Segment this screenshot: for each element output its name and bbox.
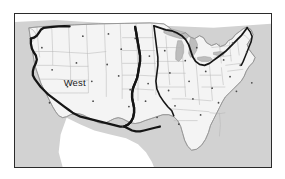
city-dot xyxy=(211,87,213,89)
map-frame-border: West xyxy=(14,13,272,168)
city-dot xyxy=(164,50,166,52)
city-dot xyxy=(174,105,176,107)
city-dot xyxy=(134,38,136,40)
city-dot xyxy=(169,72,171,74)
city-dot xyxy=(128,106,130,108)
city-dot xyxy=(200,114,202,116)
city-dot xyxy=(218,102,220,104)
city-dot xyxy=(149,55,151,57)
city-dot xyxy=(145,100,147,102)
city-dot xyxy=(41,47,43,49)
city-dot xyxy=(184,60,186,62)
city-dot xyxy=(251,82,253,84)
city-dot xyxy=(76,62,78,64)
city-dot xyxy=(236,90,238,92)
city-dot xyxy=(120,48,122,50)
city-dot xyxy=(51,69,53,71)
city-dot xyxy=(82,35,84,37)
city-dot xyxy=(188,80,190,82)
city-dot xyxy=(106,64,108,66)
city-dot xyxy=(129,89,131,91)
united-states-map[interactable] xyxy=(15,14,271,167)
city-dot xyxy=(108,33,110,35)
city-dot xyxy=(229,76,231,78)
city-dot xyxy=(156,116,158,118)
city-dot xyxy=(118,75,120,77)
map-figure: West xyxy=(0,0,285,179)
city-dot xyxy=(246,51,248,53)
city-dot xyxy=(168,90,170,92)
city-dot xyxy=(91,80,93,82)
city-dot xyxy=(223,59,225,61)
city-dot xyxy=(232,42,234,44)
city-dot xyxy=(122,126,124,128)
lake-erie xyxy=(198,56,213,61)
city-dot xyxy=(67,86,69,88)
city-dot xyxy=(239,64,241,66)
city-dot xyxy=(205,70,207,72)
city-dot xyxy=(92,100,94,102)
city-dot xyxy=(49,102,51,104)
city-dot xyxy=(196,47,198,49)
city-dot xyxy=(192,98,194,100)
city-dot xyxy=(178,123,180,125)
city-dot xyxy=(147,83,149,85)
